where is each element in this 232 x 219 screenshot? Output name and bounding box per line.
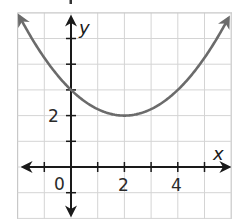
x-tick-label-2: 2	[118, 175, 129, 195]
parabola-path	[20, 17, 228, 116]
x-tick-label-0: 0	[54, 174, 65, 194]
y-tick-label-2: 2	[48, 106, 59, 126]
labels: y x 0 2 4 2	[48, 17, 224, 195]
parabola-graph: y x 0 2 4 2	[0, 0, 232, 219]
parabola-curve	[20, 17, 228, 116]
y-axis-label: y	[78, 17, 90, 38]
x-axis-label: x	[212, 143, 224, 164]
cropped-text-fragment	[70, 0, 73, 4]
x-tick-label-4: 4	[171, 175, 182, 195]
